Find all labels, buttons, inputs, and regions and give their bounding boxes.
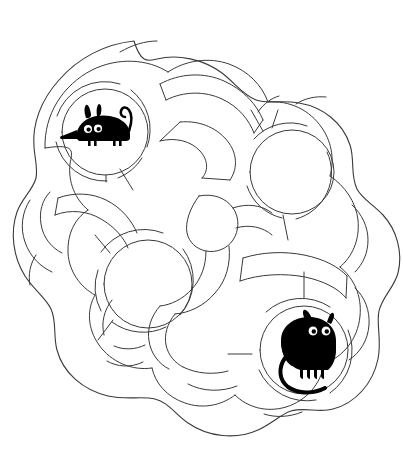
maze-puzzle-page [0,0,403,457]
chamber-upper-right [247,110,334,240]
mouse-figure [60,104,131,146]
chamber-center-left [95,229,193,340]
cat-figure [280,310,336,393]
maze-canvas [0,0,403,457]
maze-outer-boundary [13,41,399,436]
